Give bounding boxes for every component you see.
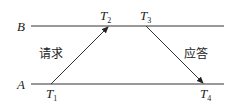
label-t4: T4 (200, 86, 211, 103)
label-t3: T3 (140, 8, 151, 25)
label-t2: T2 (100, 8, 111, 25)
label-t1: T1 (46, 86, 57, 103)
response-label: 应答 (184, 46, 208, 61)
request-label: 请求 (39, 47, 63, 61)
label-b: B (17, 19, 25, 34)
label-a: A (16, 77, 25, 92)
diagram-canvas: B A T1 T2 T3 T4 请求 应答 (0, 0, 238, 107)
timing-diagram: B A T1 T2 T3 T4 请求 应答 (0, 0, 238, 107)
